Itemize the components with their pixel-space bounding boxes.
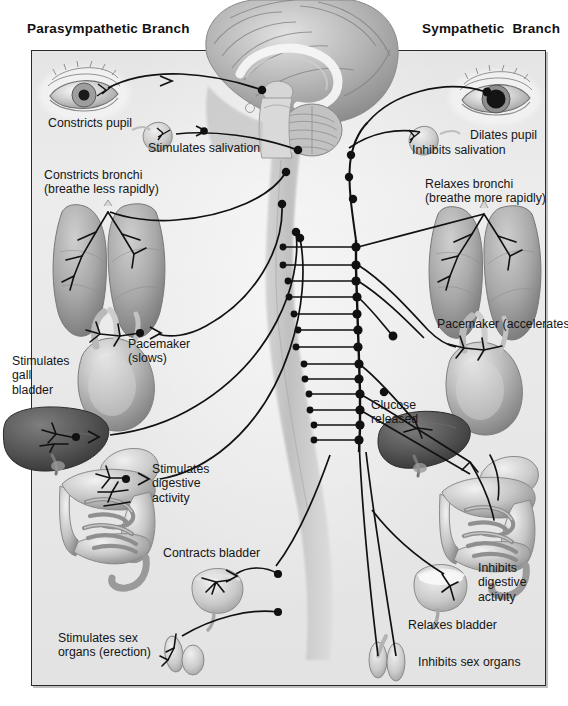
label-para-stimulates-sex-organs: Stimulates sex organs (erection) [58, 631, 151, 660]
label-para-constricts-bronchi: Constricts bronchi (breathe less rapidly… [44, 168, 159, 197]
label-para-constricts-pupil: Constricts pupil [48, 116, 132, 130]
nerve-symp-bladder [372, 510, 444, 574]
autonomic-nervous-system-figure: Parasympathetic Branch Sympathetic Branc… [0, 0, 568, 706]
label-para-contracts-bladder: Contracts bladder [163, 546, 260, 560]
nerve-para-sex-organs [182, 609, 281, 636]
label-symp-dilates-pupil: Dilates pupil [470, 128, 537, 142]
intestines-parasympathetic [60, 448, 159, 588]
label-para-stimulates-digestive: Stimulates digestive activity [152, 462, 209, 505]
label-symp-inhibits-salivation: Inhibits salivation [412, 143, 506, 157]
sex-organs-parasympathetic [160, 634, 204, 675]
label-para-stimulates-gall-bladder: Stimulates gall bladder [12, 354, 69, 397]
label-symp-inhibits-sex-organs: Inhibits sex organs [418, 655, 521, 669]
eye-parasympathetic [38, 61, 130, 122]
spinal-cord [265, 150, 332, 660]
sex-organs-sympathetic [369, 636, 405, 681]
label-symp-relaxes-bronchi: Relaxes bronchi (breathe more rapidly) [425, 177, 546, 206]
label-para-stimulates-salivation: Stimulates salivation [148, 141, 260, 155]
eye-sympathetic [449, 65, 541, 126]
label-symp-relaxes-bladder: Relaxes bladder [408, 618, 497, 632]
label-symp-inhibits-digestive: Inhibits digestive activity [478, 561, 527, 604]
label-symp-glucose-released: Glucose released [371, 398, 418, 427]
label-para-pacemaker-slows: Pacemaker (slows) [128, 337, 190, 366]
label-symp-pacemaker-accelerates: Pacemaker (accelerates) [437, 317, 568, 331]
nerve-symp-sex-organs [359, 440, 396, 656]
